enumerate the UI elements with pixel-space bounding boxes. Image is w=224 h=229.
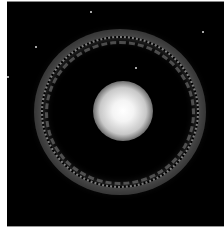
star: [7, 76, 9, 78]
star: [35, 46, 37, 48]
galaxy-image: [7, 1, 224, 227]
star: [90, 11, 92, 13]
star: [202, 31, 204, 33]
galaxy-core: [93, 81, 153, 141]
star: [135, 67, 137, 69]
